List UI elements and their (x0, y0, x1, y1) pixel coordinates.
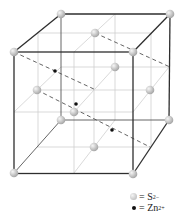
zinc-dot-icon (132, 206, 136, 210)
zinc-ion (110, 128, 114, 132)
sulfide-ion (33, 86, 42, 95)
sulfide-ion (57, 116, 66, 125)
sulfide-ion (165, 116, 174, 125)
legend-zinc-label: = Zn (139, 202, 158, 213)
sulfide-ion (91, 29, 100, 38)
legend-item-zinc: = Zn2+ (130, 202, 165, 213)
sulfide-ion (10, 169, 19, 178)
legend-item-sulfide: = S2− (130, 191, 165, 202)
sulfide-ion (129, 48, 138, 57)
sulfide-ion (57, 10, 66, 19)
unit-cell-diagram (0, 0, 184, 218)
sulfide-ball-icon (130, 193, 137, 200)
zinc-ion (74, 102, 78, 106)
zinc-ion (53, 69, 57, 73)
sulfide-ion (10, 48, 19, 57)
sulfide-ion (111, 63, 120, 72)
sulfide-ion (129, 170, 138, 179)
legend-sulfide-label: = S (139, 191, 153, 202)
sulfide-ion (166, 10, 175, 19)
sulfide-ion (146, 86, 155, 95)
sulfide-ion (70, 108, 79, 117)
legend: = S2− = Zn2+ (130, 191, 165, 213)
sulfide-ion (90, 143, 99, 152)
